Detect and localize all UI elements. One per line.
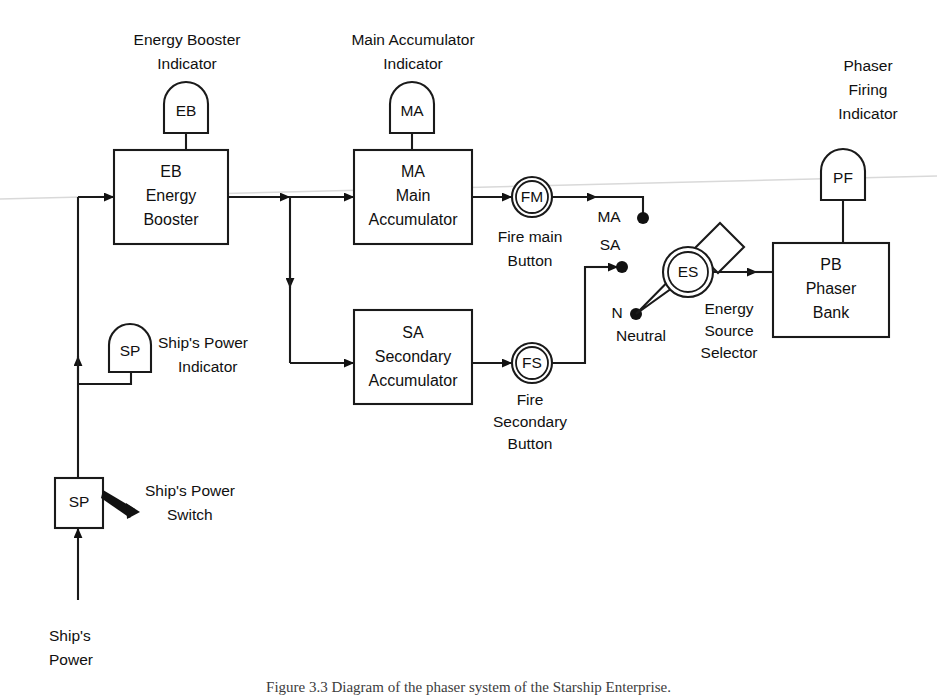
block-pb-line2: Phaser <box>806 280 857 297</box>
source-label-line2: Power <box>49 651 93 668</box>
block-energy-booster[interactable]: EB Energy Booster <box>114 150 228 244</box>
switch-sp-label-line1: Ship's Power <box>145 482 235 499</box>
terminal-n-sublabel: Neutral <box>616 327 666 344</box>
indicator-pf-code: PF <box>833 169 853 186</box>
selector-es-label-line3: Selector <box>701 344 758 361</box>
button-fs-label-line1: Fire <box>517 391 544 408</box>
switch-sp-label-line2: Switch <box>167 506 213 523</box>
indicator-main-accumulator[interactable]: MA <box>390 82 434 133</box>
indicator-sp-label-line2: Indicator <box>178 358 237 375</box>
indicator-pf-label-line3: Indicator <box>838 105 897 122</box>
terminal-n-label: N <box>611 304 622 321</box>
indicator-eb-label-line1: Energy Booster <box>134 31 241 48</box>
source-label-line1: Ship's <box>49 627 91 644</box>
block-main-accumulator[interactable]: MA Main Accumulator <box>354 150 472 244</box>
block-sa-code: SA <box>402 324 424 341</box>
selector-es-label-line1: Energy <box>704 300 753 317</box>
terminal-sa-label: SA <box>600 236 621 253</box>
button-fire-secondary[interactable]: FS <box>512 343 552 383</box>
indicator-sp-code: SP <box>120 342 141 359</box>
terminal-ma[interactable] <box>637 212 649 224</box>
block-phaser-bank[interactable]: PB Phaser Bank <box>773 243 889 337</box>
button-fs-label-line3: Button <box>508 435 553 452</box>
indicator-energy-booster[interactable]: EB <box>164 82 208 133</box>
figure-root: EB Energy Booster MA Main Accumulator SA… <box>0 0 937 698</box>
block-secondary-accumulator[interactable]: SA Secondary Accumulator <box>354 310 472 404</box>
button-fm-label-line2: Button <box>508 252 553 269</box>
button-fm-code: FM <box>521 188 543 205</box>
figure-caption: Figure 3.3 Diagram of the phaser system … <box>0 676 937 698</box>
terminal-sa[interactable] <box>616 261 628 273</box>
block-ma-line2: Main <box>396 187 431 204</box>
indicator-phaser-firing[interactable]: PF <box>821 149 865 200</box>
switch-sp-lever-tip <box>126 503 140 519</box>
indicator-ma-label-line1: Main Accumulator <box>351 31 474 48</box>
switch-sp-code: SP <box>69 493 90 510</box>
terminal-ma-label: MA <box>597 208 621 225</box>
button-fs-label-line2: Secondary <box>493 413 567 430</box>
block-eb-line2: Energy <box>146 187 197 204</box>
wire-fs-to-sa-terminal-path <box>552 267 600 363</box>
wire-sp-indicator-tap <box>78 372 131 384</box>
terminal-ma-dot <box>637 212 649 224</box>
block-ma-code: MA <box>401 163 425 180</box>
terminal-sa-dot <box>616 261 628 273</box>
button-fire-main[interactable]: FM <box>512 177 552 217</box>
block-sa-line3: Accumulator <box>369 372 459 389</box>
indicator-ma-label-line2: Indicator <box>383 55 442 72</box>
phaser-system-diagram: EB Energy Booster MA Main Accumulator SA… <box>0 0 937 698</box>
block-sa-line2: Secondary <box>375 348 452 365</box>
block-eb-code: EB <box>160 163 181 180</box>
selector-es-label-line2: Source <box>704 322 753 339</box>
block-ma-line3: Accumulator <box>369 211 459 228</box>
block-pb-line3: Bank <box>813 304 850 321</box>
indicator-ma-code: MA <box>400 102 424 119</box>
indicator-eb-code: EB <box>176 102 197 119</box>
indicator-eb-label-line2: Indicator <box>157 55 216 72</box>
selector-es-code: ES <box>678 263 699 280</box>
indicator-pf-label-line2: Firing <box>849 81 888 98</box>
indicator-pf-label-line1: Phaser <box>843 57 892 74</box>
block-pb-code: PB <box>820 256 841 273</box>
switch-ships-power[interactable]: SP <box>55 478 140 528</box>
button-fm-label-line1: Fire main <box>498 228 563 245</box>
indicator-ships-power[interactable]: SP <box>109 324 151 372</box>
indicator-sp-label-line1: Ship's Power <box>158 334 248 351</box>
block-eb-line3: Booster <box>143 211 199 228</box>
button-fs-code: FS <box>522 354 542 371</box>
